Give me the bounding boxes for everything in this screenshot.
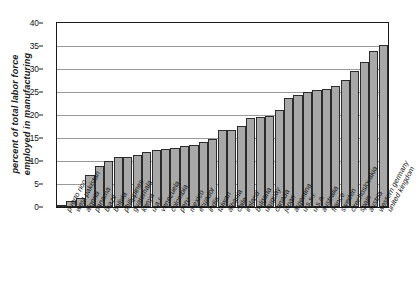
y-axis-ticks: 0510152025303540 <box>0 0 56 231</box>
y-tick-label: 30 <box>30 64 39 74</box>
bar-series <box>56 22 389 208</box>
y-tick-mark <box>39 207 43 208</box>
x-axis-tick-labels: puerto ricowest pakistanalgeriapanamabra… <box>56 209 389 291</box>
y-tick-label: 25 <box>30 87 39 97</box>
y-tick-label: 20 <box>30 110 39 120</box>
y-tick-mark <box>39 23 43 24</box>
y-tick-mark <box>39 138 43 139</box>
y-tick-mark <box>39 69 43 70</box>
bar <box>379 45 388 207</box>
y-tick-label: 35 <box>30 41 39 51</box>
y-tick-label: 10 <box>30 156 39 166</box>
y-tick-mark <box>39 92 43 93</box>
y-tick-mark <box>39 184 43 185</box>
y-tick-label: 40 <box>30 18 39 28</box>
y-tick-mark <box>39 115 43 116</box>
y-tick-mark <box>39 161 43 162</box>
y-tick-mark <box>39 46 43 47</box>
y-tick-label: 15 <box>30 133 39 143</box>
bar <box>312 90 321 207</box>
